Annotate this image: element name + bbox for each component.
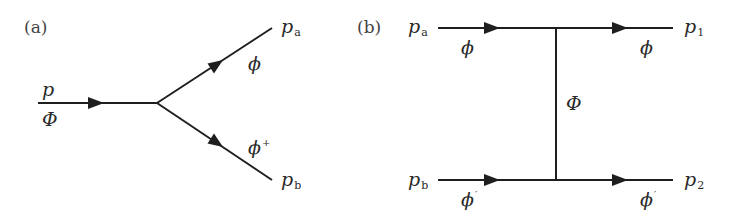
b-top-in-field: ϕ (461, 38, 474, 57)
a-outgoing-bottom-momentum: pb (281, 170, 301, 191)
a-outgoing-top-field: ϕ (248, 54, 261, 73)
b-top-in-arrow-icon (484, 22, 500, 34)
panel-label-a: (a) (24, 19, 47, 36)
b-bottom-out-arrow-icon (612, 174, 628, 186)
b-top-in-momentum: pa (408, 17, 428, 38)
a-outgoing-bottom-field: ϕ+ (248, 138, 270, 157)
a-incoming-arrow-icon (88, 97, 104, 109)
b-bottom-in-arrow-icon (484, 174, 500, 186)
a-incoming-momentum: p (42, 80, 54, 99)
b-exchange-field: Φ (566, 94, 582, 113)
b-bottom-out-field: ϕ′ (640, 190, 656, 209)
b-top-out-arrow-icon (612, 22, 628, 34)
b-top-out-momentum: p1 (684, 17, 704, 38)
feynman-diagrams: (a) p Φ pa ϕ ϕ+ pb (b) pa ϕ p1 ϕ Φ pb ϕ′… (0, 0, 730, 219)
a-outgoing-top-momentum: pa (281, 17, 301, 38)
b-bottom-in-momentum: pb (408, 170, 428, 191)
diagram-a-lines (38, 28, 272, 180)
b-bottom-in-field: ϕ′ (461, 190, 477, 209)
a-outgoing-top-arrow-icon (208, 60, 224, 74)
a-outgoing-bottom-arrow-icon (208, 134, 224, 148)
a-incoming-field: Φ (42, 110, 58, 129)
b-bottom-out-momentum: p2 (684, 170, 704, 191)
b-top-out-field: ϕ (640, 38, 653, 57)
panel-label-b: (b) (357, 19, 381, 36)
